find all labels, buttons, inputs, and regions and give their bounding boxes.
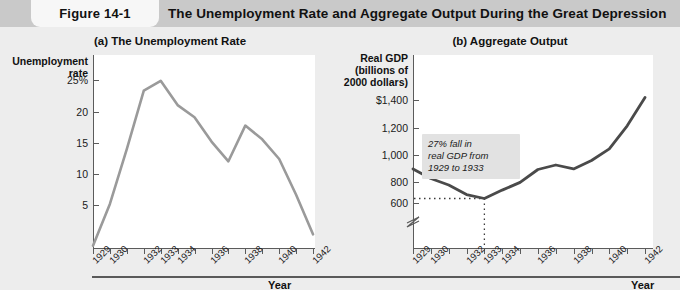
figure-root: Figure 14-1 The Unemployment Rate and Ag… bbox=[0, 0, 680, 290]
figure-number-label: Figure 14-1 bbox=[31, 0, 159, 27]
panel-aggregate-output: (b) Aggregate Output Real GDP(billions o… bbox=[340, 27, 680, 290]
figure-title: The Unemployment Rate and Aggregate Outp… bbox=[168, 0, 667, 27]
panel-unemployment-rate: (a) The Unemployment Rate Unemploymentra… bbox=[0, 27, 340, 290]
figure-bottom-rule bbox=[92, 276, 680, 278]
x-axis-name-b: Year bbox=[631, 279, 654, 290]
x-axis-name-a: Year bbox=[268, 279, 291, 290]
gdp-annotation: 27% fall in real GDP from 1929 to 1933 bbox=[422, 134, 520, 179]
